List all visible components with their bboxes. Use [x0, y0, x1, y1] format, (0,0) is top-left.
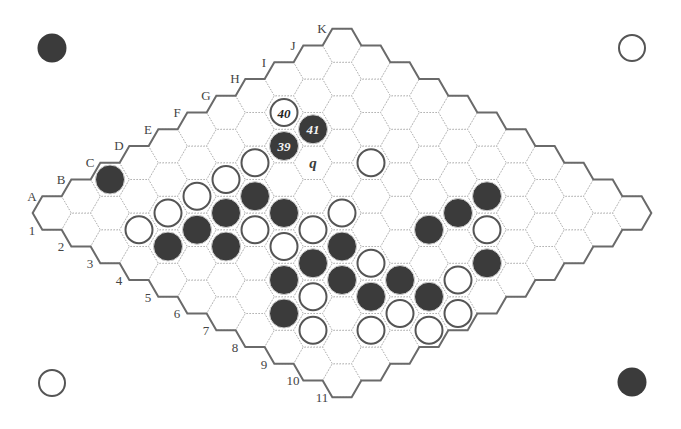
black-stone-icon [473, 182, 502, 211]
corner-white-player-icon [39, 370, 65, 396]
column-label: K [317, 21, 327, 36]
white-stone-icon [242, 149, 269, 176]
black-stone-icon [415, 215, 444, 244]
stone-white [474, 216, 501, 243]
stone-black [328, 266, 357, 295]
row-label: 4 [116, 273, 123, 288]
white-stone-icon [358, 149, 385, 176]
column-label: H [230, 71, 239, 86]
white-stone-icon [155, 200, 182, 227]
move-number: 40 [277, 106, 292, 121]
column-label: J [290, 38, 295, 53]
column-label: C [86, 155, 95, 170]
stone-black [415, 282, 444, 311]
stone-black [386, 266, 415, 295]
move-number: 41 [306, 122, 320, 137]
stone-black [444, 199, 473, 228]
corner-black-player-icon [618, 368, 647, 397]
stone-black: 39 [270, 132, 299, 161]
column-label: F [173, 105, 180, 120]
black-stone-icon [241, 182, 270, 211]
column-label: I [262, 55, 266, 70]
black-stone-icon [415, 282, 444, 311]
row-label: 1 [29, 223, 36, 238]
black-stone-icon [212, 199, 241, 228]
stone-black [473, 249, 502, 278]
row-label: 5 [145, 290, 152, 305]
black-stone-icon [357, 282, 386, 311]
row-label: 7 [203, 323, 210, 338]
stone-white [387, 300, 414, 327]
stone-black: 41 [299, 115, 328, 144]
stone-black [154, 232, 183, 261]
corner-white-player-icon [619, 35, 645, 61]
column-label: A [27, 189, 37, 204]
stone-white: 40 [271, 99, 298, 126]
row-label: 9 [261, 357, 268, 372]
stone-black [212, 199, 241, 228]
stone-white [358, 250, 385, 277]
white-stone-icon [242, 216, 269, 243]
white-stone-icon [126, 216, 153, 243]
stone-white [300, 216, 327, 243]
white-stone-icon [300, 283, 327, 310]
stone-black [357, 282, 386, 311]
white-stone-icon [300, 317, 327, 344]
column-label: B [57, 172, 66, 187]
stone-white [300, 317, 327, 344]
stone-white [184, 183, 211, 210]
stone-black [415, 215, 444, 244]
stone-white [358, 149, 385, 176]
column-label: G [201, 88, 210, 103]
white-stone-icon [213, 166, 240, 193]
stone-black [473, 182, 502, 211]
black-stone-icon [386, 266, 415, 295]
stone-white [445, 300, 472, 327]
stone-white [300, 283, 327, 310]
hex-board: ABCDEFGHIJK1234567891011 403941 q [0, 0, 681, 429]
black-stone-icon [270, 266, 299, 295]
stone-black [270, 299, 299, 328]
stone-white [213, 166, 240, 193]
white-stone-icon [358, 250, 385, 277]
stone-black [212, 232, 241, 261]
row-label: 11 [316, 390, 329, 405]
stone-black [328, 232, 357, 261]
black-stone-icon [473, 249, 502, 278]
stone-black [241, 182, 270, 211]
row-label: 3 [87, 256, 94, 271]
black-stone-icon [154, 232, 183, 261]
black-stone-icon [299, 249, 328, 278]
stone-white [329, 200, 356, 227]
white-stone-icon [358, 317, 385, 344]
stone-white [126, 216, 153, 243]
stone-black [183, 215, 212, 244]
black-stone-icon [270, 299, 299, 328]
stone-white [242, 216, 269, 243]
black-stone-icon [444, 199, 473, 228]
row-label: 2 [58, 239, 65, 254]
stone-white [416, 317, 443, 344]
cell-marker: q [309, 155, 317, 171]
move-number: 39 [277, 139, 292, 154]
stone-black [270, 266, 299, 295]
white-stone-icon [329, 200, 356, 227]
black-stone-icon [328, 232, 357, 261]
black-stone-icon [183, 215, 212, 244]
stone-white [358, 317, 385, 344]
row-label: 8 [232, 340, 239, 355]
white-stone-icon [445, 267, 472, 294]
stone-white [271, 233, 298, 260]
white-stone-icon [184, 183, 211, 210]
stone-black [96, 165, 125, 194]
column-label: E [144, 122, 152, 137]
stone-white [155, 200, 182, 227]
white-stone-icon [474, 216, 501, 243]
black-stone-icon [328, 266, 357, 295]
markers: q [309, 155, 317, 171]
stone-white [445, 267, 472, 294]
stone-white [242, 149, 269, 176]
black-stone-icon [96, 165, 125, 194]
black-stone-icon [270, 199, 299, 228]
column-label: D [114, 138, 123, 153]
